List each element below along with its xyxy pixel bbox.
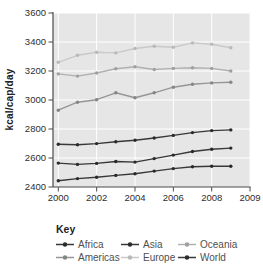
data-point <box>191 83 194 86</box>
data-point <box>172 134 175 137</box>
x-tick-label: 2004 <box>124 192 145 203</box>
data-point <box>172 67 175 70</box>
data-point <box>76 177 79 180</box>
data-point <box>210 67 213 70</box>
data-point <box>153 169 156 172</box>
data-point <box>95 71 98 74</box>
data-point <box>191 131 194 134</box>
data-point <box>114 160 117 163</box>
legend-grid: AfricaAmericasAsiaEuropeOceaniaWorld <box>56 238 250 263</box>
data-point <box>95 98 98 101</box>
data-point <box>210 165 213 168</box>
legend-item-label: Americas <box>78 252 120 263</box>
data-point <box>76 54 79 57</box>
data-point <box>191 66 194 69</box>
y-tick-label: 2400 <box>25 181 46 192</box>
data-point <box>76 163 79 166</box>
data-point <box>76 74 79 77</box>
x-tick-label: 2002 <box>86 192 107 203</box>
legend-line-marker-icon <box>121 240 139 249</box>
data-point <box>133 172 136 175</box>
data-point <box>153 68 156 71</box>
data-point <box>76 101 79 104</box>
legend-item-label: Africa <box>78 239 104 250</box>
data-point <box>172 86 175 89</box>
data-point <box>191 165 194 168</box>
data-point <box>76 143 79 146</box>
data-point <box>133 139 136 142</box>
data-point <box>114 140 117 143</box>
legend-line-marker-icon <box>178 253 196 262</box>
data-point <box>153 91 156 94</box>
legend-item-label: Asia <box>143 239 162 250</box>
data-point <box>210 148 213 151</box>
data-point <box>229 81 232 84</box>
legend-item-africa: Africa <box>56 239 120 250</box>
data-point <box>95 162 98 165</box>
data-point <box>57 179 60 182</box>
data-point <box>133 65 136 68</box>
data-point <box>133 96 136 99</box>
data-point <box>153 157 156 160</box>
legend-item-world: World <box>178 252 250 263</box>
x-tick-label: 2000 <box>48 192 69 203</box>
data-point <box>95 142 98 145</box>
data-point <box>57 109 60 112</box>
legend-title: Key <box>56 223 250 235</box>
y-tick-label: 3200 <box>25 65 46 76</box>
data-point <box>229 69 232 72</box>
data-point <box>229 128 232 131</box>
y-tick-label: 3400 <box>25 36 46 47</box>
data-point <box>229 46 232 49</box>
legend: Key AfricaAmericasAsiaEuropeOceaniaWorld <box>56 223 250 263</box>
line-chart: 2400260028003000320034003600200020022004… <box>0 0 263 212</box>
data-point <box>114 51 117 54</box>
legend-line-marker-icon <box>178 240 196 249</box>
data-point <box>191 41 194 44</box>
legend-item-oceania: Oceania <box>178 239 250 250</box>
y-tick-label: 3600 <box>25 7 46 18</box>
data-point <box>191 150 194 153</box>
legend-line-marker-icon <box>56 253 74 262</box>
data-point <box>229 146 232 149</box>
legend-item-americas: Americas <box>56 252 120 263</box>
data-point <box>114 91 117 94</box>
data-point <box>57 61 60 64</box>
y-axis-label: kcal/cap/day <box>4 55 15 145</box>
data-point <box>114 67 117 70</box>
data-point <box>57 161 60 164</box>
data-point <box>153 136 156 139</box>
x-tick-label: 2008 <box>201 192 222 203</box>
data-point <box>57 143 60 146</box>
data-point <box>172 167 175 170</box>
chart-figure: 2400260028003000320034003600200020022004… <box>0 0 263 267</box>
data-point <box>210 129 213 132</box>
legend-item-europe: Europe <box>121 252 177 263</box>
x-tick-label: 2009 <box>239 192 260 203</box>
data-point <box>114 174 117 177</box>
y-tick-label: 2800 <box>25 123 46 134</box>
legend-item-label: Europe <box>143 252 175 263</box>
legend-line-marker-icon <box>56 240 74 249</box>
data-point <box>95 176 98 179</box>
y-tick-label: 3000 <box>25 94 46 105</box>
data-point <box>133 160 136 163</box>
data-point <box>153 45 156 48</box>
y-tick-label: 2600 <box>25 152 46 163</box>
data-point <box>133 47 136 50</box>
data-point <box>210 81 213 84</box>
data-point <box>172 46 175 49</box>
legend-item-label: World <box>200 252 226 263</box>
x-tick-label: 2006 <box>163 192 184 203</box>
legend-item-label: Oceania <box>200 239 237 250</box>
data-point <box>229 165 232 168</box>
data-point <box>57 72 60 75</box>
legend-item-asia: Asia <box>121 239 177 250</box>
data-point <box>95 51 98 54</box>
data-point <box>172 153 175 156</box>
legend-line-marker-icon <box>121 253 139 262</box>
data-point <box>210 43 213 46</box>
